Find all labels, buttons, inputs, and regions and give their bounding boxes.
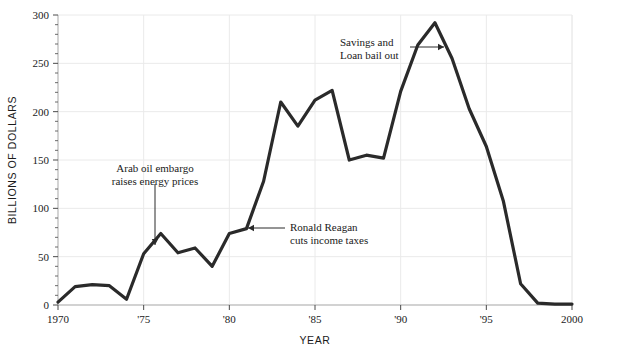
x-tick-label: '90 xyxy=(394,313,407,325)
x-tick-label: 1970 xyxy=(47,313,70,325)
chart-background xyxy=(0,0,620,354)
line-chart: 1970'75'80'85'90'952000 0501001502002503… xyxy=(0,0,620,354)
x-tick-label: '85 xyxy=(309,313,322,325)
y-tick-label: 0 xyxy=(44,299,50,311)
y-tick-label: 250 xyxy=(33,57,50,69)
x-tick-label: '75 xyxy=(137,313,150,325)
x-tick-label: '95 xyxy=(480,313,493,325)
y-tick-label: 100 xyxy=(33,202,50,214)
x-axis-title: YEAR xyxy=(300,334,331,346)
y-tick-label: 50 xyxy=(38,251,50,263)
annotation-label: Arab oil embargoraises energy prices xyxy=(112,162,199,187)
y-tick-label: 150 xyxy=(33,154,50,166)
annotation-label: Savings andLoan bail out xyxy=(340,36,399,61)
x-tick-label: 2000 xyxy=(561,313,584,325)
chart-container: 1970'75'80'85'90'952000 0501001502002503… xyxy=(0,0,620,354)
annotation-label: Ronald Reagancuts income taxes xyxy=(290,221,368,246)
y-tick-label: 300 xyxy=(33,9,50,21)
y-axis-title: BILLIONS OF DOLLARS xyxy=(6,96,18,224)
y-tick-label: 200 xyxy=(33,106,50,118)
x-tick-label: '80 xyxy=(223,313,236,325)
